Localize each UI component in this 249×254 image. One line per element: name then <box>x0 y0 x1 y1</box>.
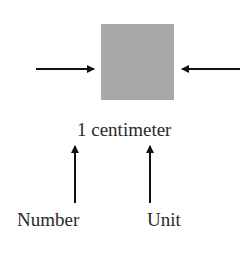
measurement-label: 1 centimeter <box>77 120 171 139</box>
unit-label: Unit <box>147 210 181 229</box>
number-label: Number <box>17 210 79 229</box>
